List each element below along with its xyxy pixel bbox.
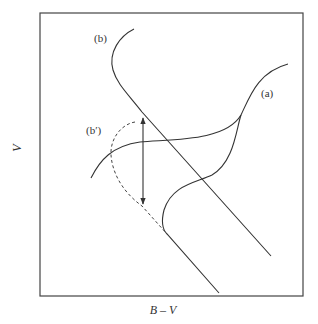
curve-a bbox=[91, 64, 288, 178]
label-curve-b-prime: (b′) bbox=[86, 124, 102, 137]
x-axis-label: B – V bbox=[150, 303, 178, 317]
y-axis-label: V bbox=[10, 143, 24, 152]
plot-frame bbox=[40, 13, 303, 296]
curve-a-lower bbox=[163, 115, 241, 293]
label-curve-a: (a) bbox=[261, 87, 274, 100]
diagram-canvas: (b) (a) (b′) B – V V bbox=[0, 0, 318, 324]
label-curve-b: (b) bbox=[94, 32, 107, 45]
curve-b-prime bbox=[111, 122, 167, 234]
